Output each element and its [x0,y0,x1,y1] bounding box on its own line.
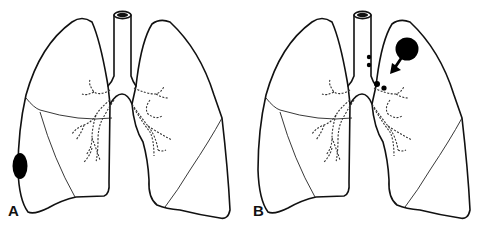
panel-label-a: A [8,203,19,218]
lymph-node [381,85,386,90]
lymph-node [367,63,371,67]
lung-diagram [0,0,480,227]
lymph-node [374,81,380,87]
lymph-node [367,55,371,59]
peripheral-nodule [13,153,28,179]
panel-label-b: B [253,203,264,218]
panel-b-lungs [258,11,470,218]
spread-arrow-icon [390,56,403,74]
panel-a-lungs [13,11,231,218]
upper-lobe-mass [396,38,419,61]
